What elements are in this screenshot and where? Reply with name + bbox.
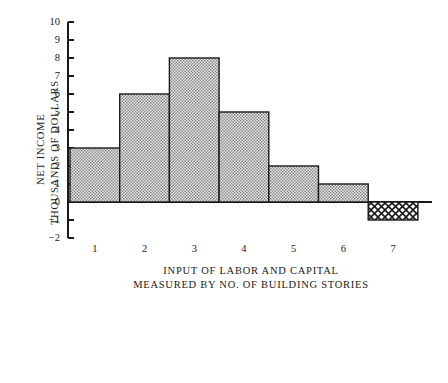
bar <box>368 202 418 220</box>
x-axis-title-line-1: INPUT OF LABOR AND CAPITAL <box>68 264 434 278</box>
bar <box>269 166 319 202</box>
plot-area: 109876543210−1−21234567 <box>0 0 448 260</box>
chart-canvas <box>0 0 448 260</box>
bar <box>70 148 120 202</box>
x-axis-title: INPUT OF LABOR AND CAPITAL MEASURED BY N… <box>68 264 434 291</box>
x-axis-title-line-2: MEASURED BY NO. OF BUILDING STORIES <box>68 278 434 292</box>
bar <box>120 94 170 202</box>
chart-legend: Key: Available residual rent to land Def… <box>0 296 448 376</box>
histogram-figure: NET INCOME THOUSANDS OF DOLLARS 10987654… <box>0 0 448 383</box>
bar <box>319 184 369 202</box>
bar <box>219 112 269 202</box>
bar <box>169 58 219 202</box>
